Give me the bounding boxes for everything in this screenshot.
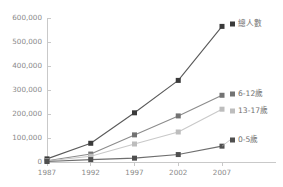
y-tick-label: 600,000 [12,13,42,22]
data-point-marker [220,24,225,29]
legend-entry: 6-12歲 [230,88,263,98]
data-point-marker [88,141,93,146]
x-tick-label: 2002 [169,168,187,177]
y-tick-label: 200,000 [12,109,42,118]
legend-entry: 總人數 [230,18,262,28]
legend-label: 13-17歲 [238,105,268,115]
data-point-marker [88,157,93,162]
x-tick-label: 1997 [125,168,143,177]
legend-swatch [230,109,235,114]
data-point-marker [176,78,181,83]
legend-label: 總人數 [238,18,262,28]
data-point-marker [132,132,137,137]
y-tick-label: 500,000 [12,37,42,46]
data-point-marker [132,156,137,161]
data-point-marker [176,113,181,118]
legend-entry: 0-5歲 [222,134,258,146]
legend-swatch [230,22,235,27]
data-point-marker [220,107,225,112]
legend-label: 6-12歲 [238,88,263,98]
series-group [45,93,225,164]
y-tick-label: 400,000 [12,61,42,70]
legend-swatch [230,92,235,97]
data-point-marker [176,130,181,135]
y-tick-label: 0 [37,157,42,166]
series-group [45,24,225,161]
legend-entry: 13-17歲 [230,105,268,115]
x-tick-label: 2007 [213,168,231,177]
data-point-marker [132,142,137,147]
line-chart: 0100,000200,000300,000400,000500,000600,… [0,0,283,187]
x-tick-label: 1987 [38,168,56,177]
y-tick-label: 100,000 [12,133,42,142]
data-point-marker [45,159,50,164]
legend-swatch [230,138,235,143]
series-line [47,26,222,158]
data-point-marker [132,110,137,115]
chart-canvas: 0100,000200,000300,000400,000500,000600,… [0,0,283,187]
legend-label: 0-5歲 [238,134,258,144]
data-point-marker [220,93,225,98]
data-point-marker [176,152,181,157]
y-tick-label: 300,000 [12,85,42,94]
x-tick-label: 1992 [82,168,100,177]
series-group [45,144,225,164]
legend-leader-line [222,140,230,146]
